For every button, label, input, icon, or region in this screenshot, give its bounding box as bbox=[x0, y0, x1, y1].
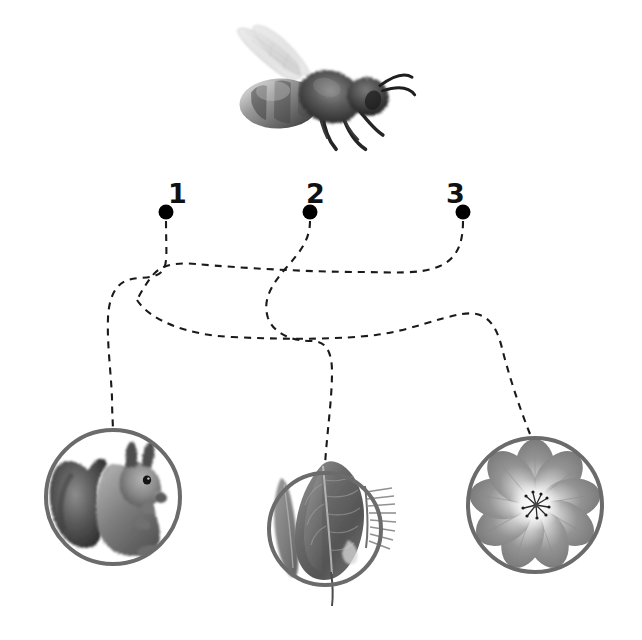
node-label-1: 1 bbox=[168, 180, 186, 207]
connector-paths bbox=[108, 221, 530, 465]
squirrel-target[interactable] bbox=[45, 429, 181, 565]
node-label-2: 2 bbox=[306, 180, 324, 207]
connector-path-2[interactable] bbox=[266, 221, 332, 465]
connector-path-1[interactable] bbox=[108, 221, 167, 431]
node-label-3: 3 bbox=[446, 180, 464, 207]
bee-wings bbox=[229, 19, 319, 83]
flower-target[interactable] bbox=[467, 437, 604, 574]
leaf-target[interactable] bbox=[269, 461, 396, 606]
bee-photo[interactable] bbox=[209, 19, 421, 177]
connector-path-3[interactable] bbox=[137, 221, 463, 300]
diagram-canvas: 1 2 3 bbox=[0, 0, 642, 640]
diagram-svg bbox=[0, 0, 642, 640]
connector-path-3b[interactable] bbox=[137, 300, 530, 434]
